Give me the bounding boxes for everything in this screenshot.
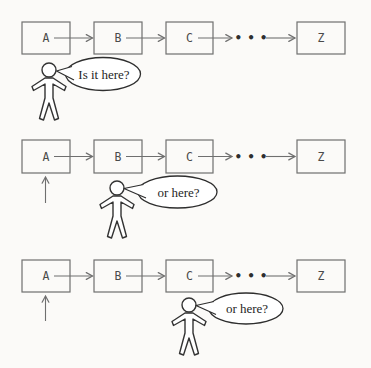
list-row-3: A B C Z ••• or here? — [22, 260, 345, 355]
node-label-b: B — [115, 269, 122, 283]
linked-list-search-figure: A B C Z ••• Is it here? A B C Z ••• — [0, 0, 371, 368]
list-row-2: A B C Z ••• or here? — [22, 140, 345, 238]
node-label-a: A — [43, 150, 50, 164]
node-label-b: B — [115, 31, 122, 45]
question-text: Is it here? — [78, 67, 129, 82]
list-row-1: A B C Z ••• Is it here? — [22, 22, 345, 120]
speech-bubble: or here? — [124, 176, 217, 208]
question-text: or here? — [226, 301, 268, 316]
question-text: or here? — [157, 185, 199, 200]
node-label-a: A — [43, 269, 50, 283]
speech-bubble-tail — [196, 302, 216, 315]
node-label-z: Z — [318, 31, 325, 45]
speech-bubble: or here? — [196, 293, 283, 324]
speech-bubble: Is it here? — [57, 58, 141, 91]
node-label-c: C — [186, 31, 193, 45]
node-label-c: C — [186, 150, 193, 164]
speech-bubble-tail — [124, 185, 146, 199]
linked-list-search-diagram: A B C Z ••• Is it here? A B C Z ••• — [0, 0, 371, 368]
node-label-z: Z — [318, 269, 325, 283]
speech-bubble-tail — [57, 67, 75, 81]
node-label-b: B — [115, 150, 122, 164]
node-label-z: Z — [318, 150, 325, 164]
node-label-a: A — [43, 31, 50, 45]
node-label-c: C — [186, 269, 193, 283]
